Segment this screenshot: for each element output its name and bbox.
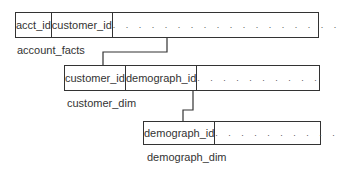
column-demograph-id: demograph_id [126,66,197,90]
table-label-customer-dim: customer_dim [67,97,136,109]
column-ellipsis: . . . . . . . . . . [215,122,339,144]
column-customer-id: customer_id [65,66,126,90]
column-ellipsis: . . . . . . . . . . [197,66,321,90]
column-demograph-id: demograph_id [144,122,215,144]
table-label-account-facts: account_facts [17,44,85,56]
table-customer-dim: customer_id demograph_id . . . . . . . .… [64,65,320,91]
column-customer-id: customer_id [52,13,113,37]
table-demograph-dim: demograph_id . . . . . . . . . . [143,121,321,145]
column-acct-id: acct_id [16,13,52,37]
table-label-demograph-dim: demograph_dim [147,151,227,163]
table-account-facts: acct_id customer_id . . . . . . . . . . … [15,12,319,38]
column-ellipsis: . . . . . . . . . . . . . . . . . . [113,13,340,37]
